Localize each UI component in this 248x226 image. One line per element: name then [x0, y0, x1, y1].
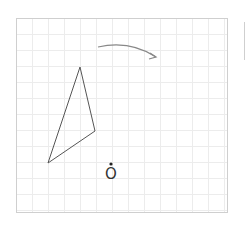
rotation-diagram: O [0, 0, 248, 226]
center-point-label: O [105, 167, 117, 182]
diagram-canvas [0, 0, 248, 226]
page-edge-divider [244, 22, 245, 60]
grid-paper [16, 18, 227, 212]
